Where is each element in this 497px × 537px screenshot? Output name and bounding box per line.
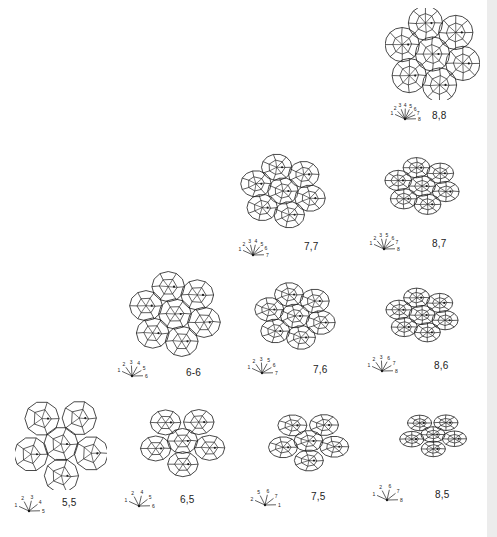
direction-fan-p86: 123678 [367,350,401,376]
fan-direction-label: 6 [145,373,148,379]
direction-fan-p87: 1235678 [369,228,403,254]
fan-direction-label: 3 [248,238,251,244]
fan-direction-label: 3 [260,356,263,362]
fan-direction-label: 1 [247,364,250,370]
fan-direction-label: 2 [373,235,376,241]
rhombic-tiling [15,398,107,490]
fan-direction-label: 8 [400,497,403,503]
fan-direction-label: 7 [266,252,269,258]
rhombic-tiling [372,280,472,350]
fan-direction-label: 5 [409,103,412,109]
fan-direction-label: 1 [367,362,370,368]
fan-direction-label: 6 [264,245,267,251]
fan-direction-label: 2 [372,356,375,362]
direction-fan-p65: 12456 [124,485,158,511]
direction-fan-p76: 123567 [247,352,281,378]
panel-label-p76: 7,6 [313,364,328,375]
fan-direction-label: 4 [141,489,144,495]
fan-direction-label: 5 [386,232,389,238]
fan-direction-label: 3 [379,232,382,238]
fan-direction-label: 6 [389,483,392,489]
fan-direction-label: 6 [391,235,394,241]
fan-direction-label: 1 [14,502,17,508]
fan-direction-label: 6 [273,362,276,368]
fan-direction-label: 4 [404,102,407,108]
fan-direction-label: 2 [394,105,397,111]
fan-direction-label: 4 [39,499,42,505]
fan-direction-label: 6 [267,488,270,494]
fan-direction-label: 1 [117,367,120,373]
fan-direction-label: 7 [393,360,396,366]
panel-label-p86: 8,6 [434,360,449,371]
fan-direction-label: 1 [372,491,375,497]
fan-direction-label: 3 [130,359,133,365]
tiling-panel-p77 [233,150,333,232]
fan-direction-label: 7 [275,493,278,499]
rhombic-tiling [245,277,345,355]
fan-direction-label: 3 [31,494,34,500]
fan-direction-label: 7 [275,370,278,376]
panel-label-p65: 6,5 [180,494,195,505]
fan-direction-label: 8 [418,116,421,122]
direction-fan-p66: 123456 [117,355,151,381]
tiling-panel-p75 [252,402,365,480]
direction-fan-p85: 12678 [372,479,406,505]
scan-edge-strip [487,0,497,537]
panel-label-p66: 6-6 [186,367,201,378]
direction-fan-p88: 12345678 [390,98,424,124]
fan-direction-label: 2 [379,484,382,490]
fan-direction-label: 8 [395,368,398,374]
direction-fan-p55: 12345 [14,490,48,516]
rhombic-tiling [252,402,365,480]
fan-direction-label: 1 [369,240,372,246]
fan-direction-label: 5 [260,241,263,247]
rhombic-tiling [380,402,486,467]
tiling-panel-p86 [372,280,472,350]
fan-direction-label: 2 [242,241,245,247]
fan-direction-label: 5 [42,508,45,514]
fan-direction-label: 3 [398,102,401,108]
fan-direction-label: 3 [380,354,383,360]
panel-label-p88: 8,8 [432,110,447,121]
fan-direction-label: 2 [131,490,134,496]
tiling-panel-p88 [385,8,480,100]
rhombic-tiling [385,8,480,100]
panel-label-p87: 8,7 [432,238,447,249]
tiling-panel-p65 [130,400,235,482]
fan-direction-label: 1 [278,502,281,508]
fan-direction-label: 2 [122,361,125,367]
fan-direction-label: 2 [21,495,24,501]
fan-direction-label: 2 [252,358,255,364]
direction-fan-p75: 25671 [250,484,284,510]
tiling-panel-p85 [380,402,486,467]
fan-direction-label: 6 [152,503,155,509]
fan-direction-label: 5 [143,365,146,371]
panel-label-p85: 8,5 [435,489,450,500]
tiling-panel-p76 [245,277,345,355]
tiling-panel-p55 [15,398,107,490]
fan-direction-label: 1 [124,497,127,503]
fan-direction-label: 8 [397,246,400,252]
fan-direction-label: 5 [267,357,270,363]
rhombic-tiling [125,270,225,358]
fan-direction-label: 1 [238,246,241,252]
panel-label-p55: 5,5 [62,497,77,508]
tiling-panel-p66 [125,270,225,358]
direction-fan-p77: 1234567 [238,234,272,260]
fan-direction-label: 7 [397,488,400,494]
fan-direction-label: 5 [149,494,152,500]
fan-direction-label: 4 [255,238,258,244]
rhombic-tiling [233,150,333,232]
fan-direction-label: 5 [257,489,260,495]
rhombic-tiling [130,400,235,482]
fan-direction-label: 6 [387,355,390,361]
panel-label-p75: 7,5 [311,491,326,502]
rhombic-tiling [372,150,472,222]
panel-label-p77: 7,7 [304,241,319,252]
fan-direction-label: 2 [250,496,253,502]
fan-direction-label: 4 [137,360,140,366]
fan-direction-label: 7 [395,239,398,245]
tiling-panel-p87 [372,150,472,222]
